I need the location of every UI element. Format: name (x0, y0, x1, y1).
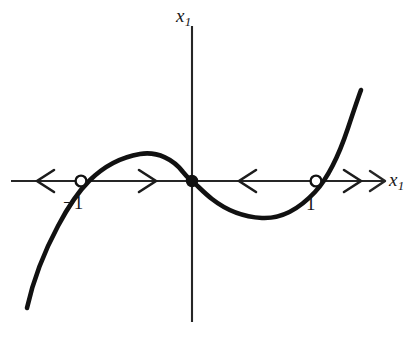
tick-label-plus-one: 1 (306, 194, 316, 213)
y-axis-label-variable: x (176, 5, 184, 26)
phase-plot-canvas (0, 0, 416, 342)
x-axis-label-subscript: 1 (398, 178, 405, 193)
equilibrium-marker-minus-one (76, 176, 87, 187)
x-dot-glyph: x (176, 6, 184, 25)
equilibrium-marker-origin (187, 176, 198, 187)
tick-label-minus-one: −1 (63, 193, 83, 212)
x-axis-label-variable: x (389, 169, 397, 190)
y-axis-label-subscript: 1 (185, 14, 192, 29)
x-axis-label: x1 (389, 170, 404, 192)
phase-portrait-figure: x1 x1 −1 1 (0, 0, 416, 342)
y-axis-label: x1 (176, 6, 191, 28)
equilibrium-marker-plus-one (311, 176, 322, 187)
